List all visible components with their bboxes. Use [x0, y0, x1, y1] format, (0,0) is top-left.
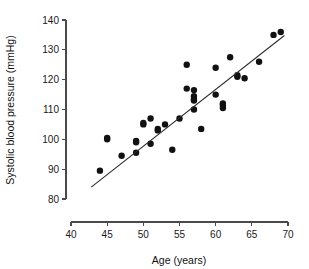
regression-line: [91, 36, 284, 188]
y-axis: 8090100110120130140: [42, 15, 66, 205]
x-tick-label: 65: [246, 229, 258, 240]
x-tick-label: 50: [138, 229, 150, 240]
data-point: [198, 126, 204, 132]
data-point: [169, 147, 175, 153]
data-point: [256, 59, 262, 65]
data-point: [118, 153, 124, 159]
data-point: [191, 87, 197, 93]
chart-canvas: 8090100110120130140 40455055606570 Age (…: [0, 0, 309, 269]
data-point: [270, 32, 276, 38]
y-tick-label: 100: [42, 134, 59, 145]
x-tick-label: 55: [174, 229, 186, 240]
data-point: [278, 29, 284, 35]
y-tick-label: 140: [42, 15, 59, 26]
data-point: [220, 105, 226, 111]
y-tick-label: 110: [43, 104, 59, 115]
data-point: [212, 65, 218, 71]
data-point: [184, 85, 190, 91]
data-point: [147, 115, 153, 121]
data-point: [133, 139, 139, 145]
data-point: [184, 62, 190, 68]
y-tick-label: 130: [42, 44, 59, 55]
y-tick-label: 80: [48, 194, 60, 205]
x-axis-title: Age (years): [152, 254, 206, 266]
data-points: [97, 29, 284, 174]
data-point: [140, 120, 146, 126]
data-point: [191, 97, 197, 103]
x-tick-label: 70: [282, 229, 294, 240]
x-axis: 40455055606570: [65, 222, 294, 240]
data-point: [162, 121, 168, 127]
data-point: [97, 167, 103, 173]
data-point: [191, 106, 197, 112]
data-point: [212, 91, 218, 97]
y-tick-label: 90: [48, 164, 60, 175]
data-point: [104, 136, 110, 142]
x-tick-label: 60: [210, 229, 222, 240]
regression-line-segment: [91, 36, 284, 188]
y-tick-label: 120: [42, 74, 59, 85]
data-point: [227, 54, 233, 60]
y-axis-title: Systolic blood pressure (mmHg): [4, 35, 16, 184]
x-tick-label: 45: [102, 229, 114, 240]
data-point: [147, 141, 153, 147]
x-tick-label: 40: [65, 229, 77, 240]
scatter-plot-figure: 8090100110120130140 40455055606570 Age (…: [0, 0, 309, 269]
data-point: [241, 75, 247, 81]
